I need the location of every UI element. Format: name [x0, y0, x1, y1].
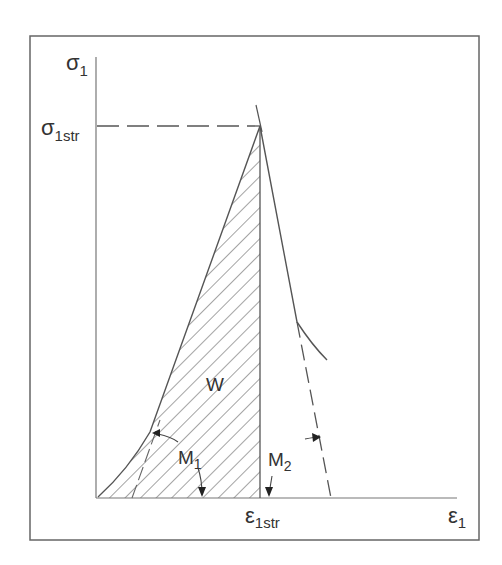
y-axis-label: σ1 — [66, 50, 88, 79]
unloading-curve — [260, 126, 327, 360]
peak-strain-label: ε1str — [245, 503, 280, 531]
area-w-label: W — [206, 374, 224, 395]
m2-tangent-line — [297, 322, 331, 498]
stress-strain-diagram: σ1 σ1str ε1 ε1str W M1 M2 — [0, 0, 502, 565]
x-axis-label: ε1 — [448, 503, 466, 531]
m2-arrow-lower — [265, 487, 273, 497]
hatched-area-w — [90, 120, 270, 500]
m2-label: M2 — [268, 449, 292, 474]
peak-stress-label: σ1str — [41, 115, 80, 144]
